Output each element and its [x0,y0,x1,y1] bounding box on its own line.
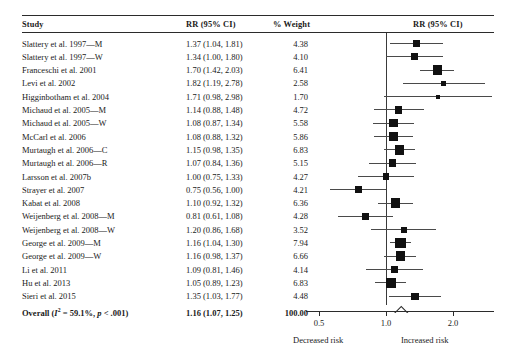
point-estimate-marker [401,227,407,233]
study-weight: 5.15 [268,158,308,168]
study-name: Kabat et al. 2008 [22,198,80,208]
study-name: Strayer et al. 2007 [22,185,84,195]
study-name: Li et al. 2011 [22,265,67,275]
study-rr: 1.16 (1.04, 1.30) [186,238,260,248]
axis-tick [319,311,320,316]
study-rr: 1.00 (0.75, 1.33) [186,172,260,182]
study-rr: 1.34 (1.00, 1.80) [186,52,260,62]
study-weight: 4.38 [268,39,308,49]
point-estimate-marker [395,145,405,155]
study-weight: 6.83 [268,278,308,288]
plot-area [306,33,494,313]
study-rr: 1.82 (1.19, 2.78) [186,78,260,88]
study-name: Michaud et al. 2005—W [22,118,107,128]
study-name: McCarl et al. 2006 [22,132,86,142]
study-name: Higginbotham et al. 2004 [22,92,109,102]
study-rr: 1.14 (0.88, 1.48) [186,105,260,115]
study-weight: 3.52 [268,225,308,235]
study-rr: 1.20 (0.86, 1.68) [186,225,260,235]
study-rr: 1.05 (0.89, 1.23) [186,278,260,288]
axis-tick-label: 2.0 [438,318,468,328]
study-name: Murtaugh et al. 2006—C [22,145,107,155]
point-estimate-marker [389,119,397,127]
point-estimate-marker [411,293,418,300]
study-rr: 1.08 (0.87, 1.34) [186,118,260,128]
null-reference-line [386,33,387,305]
study-weight: 4.72 [268,105,308,115]
point-estimate-marker [413,40,420,47]
study-rr: 1.15 (0.98, 1.35) [186,145,260,155]
point-estimate-marker [395,238,406,249]
study-name: Slattery et al. 1997—W [22,52,103,62]
point-estimate-marker [383,173,390,180]
x-axis-line [306,311,494,312]
study-name: Franceschi et al. 2001 [22,65,97,75]
overall-label: Overall (I2 = 59.1%, p < .001) [22,308,128,318]
study-rr: 1.70 (1.42, 2.03) [186,65,260,75]
study-rr: 0.75 (0.56, 1.00) [186,185,260,195]
table-top-rule [22,15,494,16]
overall-weight: 100.00 [268,308,308,318]
column-header-study: Study [22,19,44,30]
column-header-plot: RR (95% CI) [413,19,463,30]
study-weight: 2.58 [268,78,308,88]
axis-label-decreased-risk: Decreased risk [293,335,343,345]
study-weight: 6.66 [268,251,308,261]
study-rr: 1.71 (0.98, 2.98) [186,92,260,102]
study-weight: 6.36 [268,198,308,208]
study-name: George et al. 2009—M [22,238,101,248]
study-rr: 0.81 (0.61, 1.08) [186,211,260,221]
study-rr: 1.08 (0.88, 1.32) [186,132,260,142]
study-weight: 6.83 [268,145,308,155]
study-weight: 4.28 [268,211,308,221]
column-header-rr: RR (95% CI) [186,19,236,30]
study-weight: 4.14 [268,265,308,275]
study-name: Levi et al. 2002 [22,78,75,88]
axis-tick-label: 1.0 [371,318,401,328]
point-estimate-marker [389,159,397,167]
point-estimate-marker [391,266,398,273]
study-weight: 5.86 [268,132,308,142]
study-rr: 1.10 (0.92, 1.32) [186,198,260,208]
point-estimate-marker [433,65,442,74]
study-name: Larsson et al. 2007b [22,172,91,182]
study-rr: 1.37 (1.04, 1.81) [186,39,260,49]
study-rr: 1.07 (0.84, 1.36) [186,158,260,168]
study-weight: 6.41 [268,65,308,75]
study-weight: 4.48 [268,291,308,301]
axis-tick [386,311,387,316]
study-name: Weijenberg et al. 2008—M [22,211,115,221]
study-name: Sieri et al. 2015 [22,291,76,301]
point-estimate-marker [395,106,402,113]
study-name: Hu et al. 2013 [22,278,70,288]
point-estimate-marker [411,53,418,60]
study-rr: 1.16 (0.98, 1.37) [186,251,260,261]
point-estimate-marker [389,132,398,141]
study-name: Michaud et al. 2005—M [22,105,106,115]
overall-rr: 1.16 (1.07, 1.25) [186,308,260,318]
study-weight: 7.94 [268,238,308,248]
point-estimate-marker [355,186,362,193]
forest-plot-figure: Study RR (95% CI) % Weight RR (95% CI) S… [0,0,526,356]
column-header-weight: % Weight [273,19,310,30]
point-estimate-marker [441,81,446,86]
axis-tick [453,311,454,316]
study-weight: 1.70 [268,92,308,102]
study-name: Weijenberg et al. 2008—W [22,225,115,235]
study-weight: 4.27 [268,172,308,182]
study-name: Slattery et al. 1997—M [22,39,102,49]
study-name: George et al. 2009—W [22,251,101,261]
axis-tick-label: 0.5 [304,318,334,328]
point-estimate-marker [362,213,369,220]
study-rr: 1.35 (1.03, 1.77) [186,291,260,301]
study-rr: 1.09 (0.81, 1.46) [186,265,260,275]
axis-label-increased-risk: Increased risk [401,335,448,345]
point-estimate-marker [391,198,400,207]
point-estimate-marker [396,251,405,260]
study-weight: 4.10 [268,52,308,62]
study-weight: 5.58 [268,118,308,128]
point-estimate-marker [436,95,440,99]
study-name: Murtaugh et al. 2006—R [22,158,107,168]
point-estimate-marker [386,278,396,288]
study-weight: 4.21 [268,185,308,195]
